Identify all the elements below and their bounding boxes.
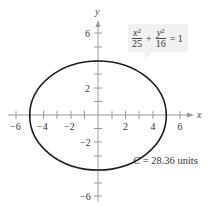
x-fraction: x2 25 — [132, 28, 142, 49]
y-tick-label: −6 — [80, 191, 91, 202]
y-axis-label: y — [94, 6, 100, 17]
y-axis-arrow-icon — [96, 20, 101, 27]
x-axis-label: x — [196, 109, 202, 120]
ellipse-equation: x2 25 + y2 16 = 1 — [131, 25, 186, 52]
x-tick-label: −4 — [37, 121, 48, 132]
y-fraction: y2 16 — [156, 28, 166, 49]
callout-pointer — [144, 52, 152, 60]
plus-sign: + — [146, 33, 152, 44]
x-tick-label: 2 — [123, 121, 128, 132]
x-axis-arrow-icon — [187, 113, 194, 118]
y-tick-label: 6 — [85, 28, 90, 39]
y-tick-label: 2 — [85, 83, 90, 94]
x-tick-label: 4 — [151, 121, 156, 132]
x-tick-label: 6 — [178, 121, 183, 132]
x-tick-label: −6 — [10, 121, 21, 132]
y-tick-label: −2 — [80, 137, 91, 148]
equals-one: = 1 — [170, 33, 183, 44]
x-tick-label: −2 — [64, 121, 75, 132]
circumference-label: C = 28.36 units — [133, 155, 198, 166]
